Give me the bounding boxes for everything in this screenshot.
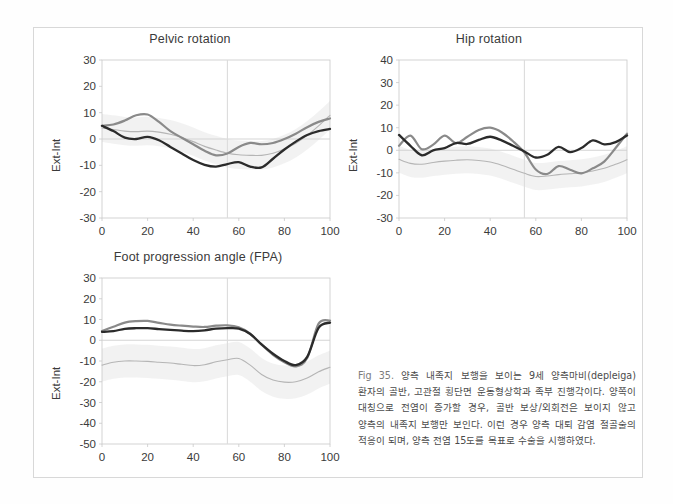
svg-text:30: 30 (380, 77, 393, 89)
svg-text:60: 60 (232, 225, 245, 237)
plot-area-hip-rotation: 403020100-10-20-30020406080100 (357, 50, 637, 242)
svg-text:-10: -10 (376, 167, 393, 179)
svg-text:20: 20 (438, 225, 451, 237)
svg-text:20: 20 (141, 225, 154, 237)
svg-text:100: 100 (320, 225, 339, 237)
svg-text:30: 30 (83, 54, 96, 66)
svg-text:20: 20 (141, 451, 154, 463)
chart-title-foot-progression-angle: Foot progression angle (FPA) (40, 250, 356, 264)
svg-text:-10: -10 (79, 355, 96, 367)
figure-page: Pelvic rotation Ext-Int 3020100-10-20-30… (0, 0, 673, 504)
svg-text:-30: -30 (79, 397, 96, 409)
svg-text:20: 20 (83, 293, 96, 305)
svg-text:0: 0 (99, 225, 105, 237)
figure-caption: Fig 35. 양측 내족지 보행을 보이는 9세 양측마비(depleiga)… (358, 368, 636, 449)
svg-text:100: 100 (617, 225, 636, 237)
figure-number: Fig 35. (358, 370, 394, 381)
figure-caption-text: 양측 내족지 보행을 보이는 9세 양측마비(depleiga) 환자의 골반,… (358, 370, 636, 446)
svg-text:30: 30 (83, 272, 96, 284)
chart-title-pelvic-rotation: Pelvic rotation (40, 32, 340, 46)
svg-text:0: 0 (90, 334, 96, 346)
svg-text:20: 20 (380, 99, 393, 111)
svg-text:0: 0 (387, 144, 393, 156)
svg-text:100: 100 (320, 451, 339, 463)
svg-text:-20: -20 (79, 376, 96, 388)
svg-text:0: 0 (90, 133, 96, 145)
svg-text:20: 20 (83, 80, 96, 92)
svg-text:-10: -10 (79, 159, 96, 171)
svg-text:-20: -20 (376, 189, 393, 201)
svg-text:60: 60 (232, 451, 245, 463)
svg-text:-40: -40 (79, 417, 96, 429)
svg-text:-50: -50 (79, 438, 96, 450)
svg-text:40: 40 (187, 451, 200, 463)
chart-panel-foot-progression-angle: Foot progression angle (FPA) Ext-Int 302… (40, 250, 356, 474)
chart-title-hip-rotation: Hip rotation (339, 32, 639, 46)
svg-text:80: 80 (278, 451, 291, 463)
plot-area-foot-progression-angle: 3020100-10-20-30-40-50020406080100 (60, 268, 340, 468)
svg-text:40: 40 (187, 225, 200, 237)
chart-panel-hip-rotation: Hip rotation Ext-Int 403020100-10-20-300… (339, 32, 639, 244)
svg-text:-30: -30 (79, 212, 96, 224)
svg-text:60: 60 (529, 225, 542, 237)
svg-text:10: 10 (83, 107, 96, 119)
svg-text:80: 80 (575, 225, 588, 237)
svg-text:40: 40 (484, 225, 497, 237)
svg-text:0: 0 (396, 225, 402, 237)
chart-panel-pelvic-rotation: Pelvic rotation Ext-Int 3020100-10-20-30… (40, 32, 340, 244)
plot-area-pelvic-rotation: 3020100-10-20-30020406080100 (60, 50, 340, 242)
svg-text:40: 40 (380, 54, 393, 66)
svg-text:0: 0 (99, 451, 105, 463)
svg-text:-30: -30 (376, 212, 393, 224)
svg-text:-20: -20 (79, 186, 96, 198)
svg-text:10: 10 (83, 314, 96, 326)
svg-text:80: 80 (278, 225, 291, 237)
svg-text:10: 10 (380, 122, 393, 134)
